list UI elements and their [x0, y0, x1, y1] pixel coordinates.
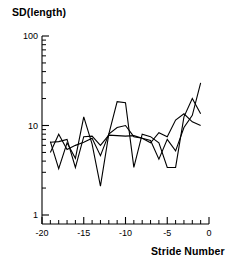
tick-labels-group: 110100-20-15-10-50 — [23, 31, 212, 238]
y-tick-label: 1 — [33, 210, 38, 220]
ticks-group — [42, 36, 209, 224]
x-tick-label: -5 — [163, 228, 171, 238]
x-tick-label: -20 — [35, 228, 48, 238]
x-tick-label: -15 — [77, 228, 90, 238]
data-line-trace-1 — [50, 83, 200, 159]
y-tick-label: 10 — [28, 121, 38, 131]
data-line-trace-3 — [50, 114, 200, 168]
x-tick-label: -10 — [119, 228, 132, 238]
x-tick-label: 0 — [206, 228, 211, 238]
plot-area: 110100-20-15-10-50 — [0, 0, 245, 268]
data-series-group — [50, 83, 200, 186]
chart-figure: SD(length) 110100-20-15-10-50 Stride Num… — [0, 0, 245, 268]
axes-group — [42, 36, 209, 224]
y-tick-label: 100 — [23, 31, 38, 41]
x-axis-title: Stride Number — [151, 245, 225, 257]
